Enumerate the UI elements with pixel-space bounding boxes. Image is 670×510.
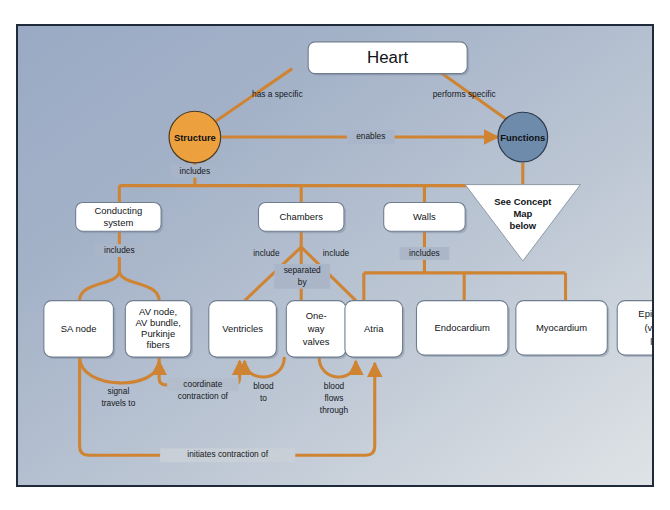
node-sa-node[interactable]: SA node bbox=[44, 301, 116, 359]
edge-label-blood-to-1: blood bbox=[253, 381, 274, 391]
node-endocardium-label: Endocardium bbox=[434, 322, 490, 333]
callout-line-1: See Concept bbox=[494, 196, 552, 207]
node-heart[interactable]: Heart bbox=[308, 42, 469, 76]
link-conducting-split-right bbox=[119, 271, 159, 301]
node-see-concept-map-callout[interactable]: See Concept Map below bbox=[465, 185, 580, 261]
callout-line-3: below bbox=[509, 220, 536, 231]
concept-map-svg: Heart Structure Functions See Concept Ma… bbox=[18, 26, 652, 485]
edge-label-separated-by-2: by bbox=[298, 277, 308, 287]
node-structure[interactable]: Structure bbox=[169, 111, 221, 163]
edge-label-includes-structure: includes bbox=[180, 166, 211, 176]
edge-label-coordinate-1: coordinate bbox=[183, 379, 222, 389]
edge-label-signal-travels-2: travels to bbox=[101, 398, 135, 408]
link-conducting-split-left bbox=[80, 271, 120, 301]
node-valves-label-3: valves bbox=[303, 336, 330, 347]
node-myocardium[interactable]: Myocardium bbox=[516, 301, 609, 358]
node-epicardium-label-2: (visceral bbox=[644, 322, 652, 333]
node-ventricles[interactable]: Ventricles bbox=[209, 301, 279, 359]
concept-map-page: Heart Structure Functions See Concept Ma… bbox=[0, 0, 670, 510]
node-chambers-label: Chambers bbox=[279, 211, 323, 222]
edge-label-separated-by-1: separated bbox=[284, 265, 321, 275]
node-functions[interactable]: Functions bbox=[498, 112, 548, 162]
node-av-label-4: fibers bbox=[147, 339, 170, 350]
link-atria-blood-to-ventricles bbox=[245, 357, 285, 377]
node-conducting-system[interactable]: Conducting system bbox=[76, 202, 163, 233]
node-epicardium-label-1: Epicardium bbox=[638, 308, 652, 319]
node-myocardium-label: Myocardium bbox=[536, 322, 587, 333]
link-sa-to-av-signal bbox=[80, 357, 159, 383]
edge-label-layer: has a specific performs specific enables… bbox=[95, 87, 496, 462]
node-sa-node-label: SA node bbox=[61, 323, 97, 334]
link-layer bbox=[80, 69, 566, 456]
edge-label-blood-flows-2: flows bbox=[325, 393, 344, 403]
edge-label-signal-travels-1: signal bbox=[107, 386, 129, 396]
node-ventricles-label: Ventricles bbox=[222, 323, 263, 334]
node-valves-label-1: One- bbox=[306, 310, 327, 321]
edge-label-performs-specific: performs specific bbox=[433, 89, 496, 99]
node-conducting-system-label-2: system bbox=[103, 217, 133, 228]
edge-label-initiates-contraction: initiates contraction of bbox=[187, 449, 268, 459]
edge-label-include-right: include bbox=[323, 248, 350, 258]
node-one-way-valves[interactable]: One- way valves bbox=[286, 301, 348, 359]
node-endocardium[interactable]: Endocardium bbox=[416, 301, 509, 358]
edge-label-includes-walls: includes bbox=[409, 248, 440, 258]
node-conducting-system-label-1: Conducting bbox=[95, 205, 143, 216]
node-epicardium[interactable]: Epicardium (visceral layer) bbox=[617, 301, 652, 358]
edge-label-has-a-specific: has a specific bbox=[252, 89, 303, 99]
node-structure-label: Structure bbox=[174, 132, 216, 143]
edge-label-blood-to-2: to bbox=[260, 393, 267, 403]
node-chambers[interactable]: Chambers bbox=[258, 202, 345, 233]
edge-label-includes-conducting: includes bbox=[104, 245, 135, 255]
node-av-node-bundle-purkinje[interactable]: AV node, AV bundle, Purkinje fibers bbox=[125, 301, 193, 359]
node-layer: Heart Structure Functions See Concept Ma… bbox=[44, 42, 652, 359]
node-av-label-3: Purkinje bbox=[141, 328, 175, 339]
diagram-frame: Heart Structure Functions See Concept Ma… bbox=[16, 24, 654, 487]
node-functions-label: Functions bbox=[500, 132, 545, 143]
edge-label-enables: enables bbox=[356, 131, 385, 141]
node-atria-label: Atria bbox=[364, 323, 384, 334]
link-valves-blood-flows-atria bbox=[319, 357, 356, 377]
node-valves-label-2: way bbox=[307, 323, 325, 334]
edge-label-blood-flows-3: through bbox=[320, 405, 349, 415]
node-walls-label: Walls bbox=[413, 211, 436, 222]
node-heart-label: Heart bbox=[367, 48, 409, 67]
edge-label-blood-flows-1: blood bbox=[324, 381, 345, 391]
node-av-label-1: AV node, bbox=[139, 306, 177, 317]
node-epicardium-label-3: layer) bbox=[650, 336, 652, 347]
node-walls[interactable]: Walls bbox=[384, 202, 467, 233]
edge-label-coordinate-2: contraction of bbox=[178, 391, 229, 401]
callout-line-2: Map bbox=[513, 208, 532, 219]
edge-label-include-left: include bbox=[253, 248, 280, 258]
node-av-label-2: AV bundle, bbox=[135, 317, 180, 328]
node-atria[interactable]: Atria bbox=[345, 301, 405, 359]
